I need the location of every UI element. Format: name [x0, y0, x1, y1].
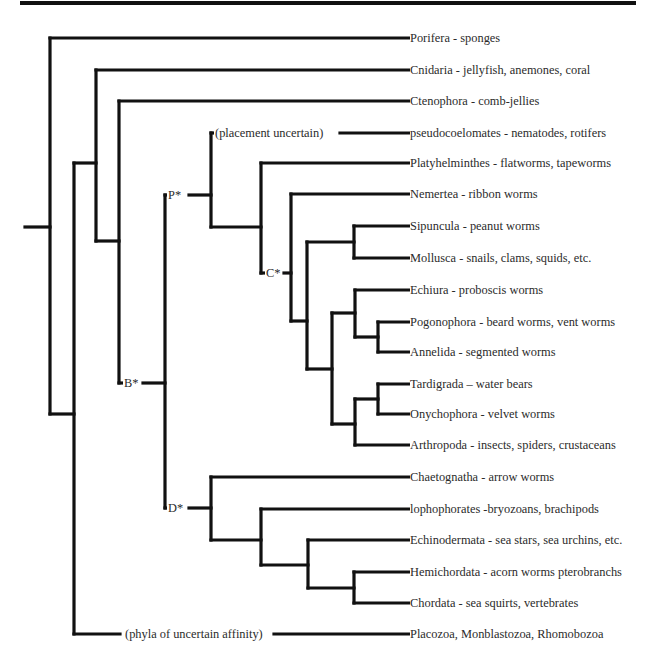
- leaf-cnidaria: Cnidaria - jellyfish, anemones, coral: [410, 63, 590, 77]
- node-b-label: B*: [123, 376, 139, 390]
- node-d-label: D*: [167, 501, 184, 515]
- leaf-lophophorates: lophophorates -bryozoans, brachipods: [410, 502, 599, 516]
- leaf-chaetognatha: Chaetognatha - arrow worms: [410, 470, 554, 484]
- leaf-echiura: Echiura - proboscis worms: [410, 283, 543, 297]
- leaf-arthropoda: Arthropoda - insects, spiders, crustacea…: [410, 438, 616, 452]
- node-c-label: C*: [265, 266, 281, 280]
- leaf-ctenophora: Ctenophora - comb-jellies: [410, 94, 539, 108]
- leaf-porifera: Porifera - sponges: [410, 31, 500, 45]
- leaf-pogonophora: Pogonophora - beard worms, vent worms: [410, 315, 615, 329]
- leaf-pseudocoelomates: pseudocoelomates - nematodes, rotifers: [410, 126, 606, 140]
- placement-uncertain-label: (placement uncertain): [214, 126, 324, 140]
- leaf-chordata: Chordata - sea squirts, vertebrates: [410, 596, 578, 610]
- node-p-label: P*: [167, 188, 182, 202]
- uncertain-affinity-label: (phyla of uncertain affinity): [124, 627, 264, 641]
- leaf-mollusca: Mollusca - snails, clams, squids, etc.: [410, 251, 591, 265]
- leaf-annelida: Annelida - segmented worms: [410, 345, 556, 359]
- leaf-echinodermata: Echinodermata - sea stars, sea urchins, …: [410, 533, 622, 547]
- leaf-sipuncula: Sipuncula - peanut worms: [410, 219, 540, 233]
- leaf-platyhelminthes: Platyhelminthes - flatworms, tapeworms: [410, 156, 611, 170]
- leaf-tardigrada: Tardigrada – water bears: [410, 377, 533, 391]
- leaf-uncertain-phyla: Placozoa, Monblastozoa, Rhomobozoa: [410, 627, 603, 641]
- leaf-nemertea: Nemertea - ribbon worms: [410, 187, 538, 201]
- leaf-hemichordata: Hemichordata - acorn worms pterobranchs: [410, 565, 622, 579]
- leaf-onychophora: Onychophora - velvet worms: [410, 407, 555, 421]
